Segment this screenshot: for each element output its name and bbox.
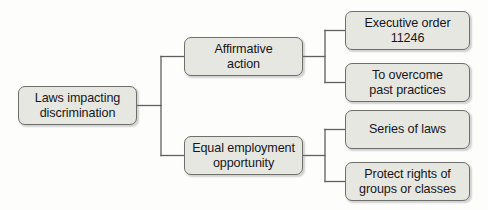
node-to-overcome-past-practices[interactable]: To overcome past practices (345, 63, 470, 102)
node-executive-order-11246[interactable]: Executive order 11246 (345, 11, 470, 50)
node-equal-employment-opportunity[interactable]: Equal employment opportunity (184, 136, 303, 175)
node-label: Series of laws (365, 122, 450, 137)
node-label: Executive order 11246 (361, 16, 455, 46)
node-protect-rights-of-groups-or-classes[interactable]: Protect rights of groups or classes (345, 162, 470, 201)
diagram-canvas: Laws impacting discrimination Affirmativ… (0, 0, 488, 210)
node-laws-impacting-discrimination[interactable]: Laws impacting discrimination (18, 86, 137, 125)
node-label: Equal employment opportunity (188, 141, 299, 171)
node-label: To overcome past practices (365, 68, 449, 98)
node-label: Laws impacting discrimination (31, 91, 124, 121)
node-label: Protect rights of groups or classes (355, 167, 460, 197)
node-series-of-laws[interactable]: Series of laws (345, 110, 470, 149)
node-affirmative-action[interactable]: Affirmative action (184, 37, 303, 76)
node-label: Affirmative action (210, 42, 276, 72)
